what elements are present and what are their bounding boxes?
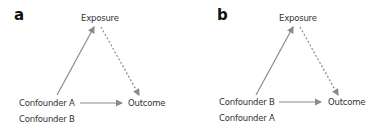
panel-b: b Exposure Outcome Confounder B Confound…: [191, 0, 382, 137]
panel-label: a: [14, 6, 24, 24]
confounder-primary-node: Confounder B: [219, 97, 275, 107]
exposure-node: Exposure: [81, 13, 119, 23]
exposure-node: Exposure: [279, 13, 317, 23]
confounder-primary-node: Confounder A: [19, 98, 75, 108]
confounder-secondary-node: Confounder B: [19, 114, 75, 124]
arrow-confounder-to-exposure: [57, 27, 94, 95]
outcome-node: Outcome: [328, 97, 365, 107]
panel-a: a Exposure Outcome Confounder A Confound…: [0, 0, 191, 137]
outcome-node: Outcome: [128, 98, 165, 108]
arrow-exposure-to-outcome-dashed: [101, 27, 139, 95]
arrow-exposure-to-outcome-dashed: [300, 27, 338, 95]
arrow-confounder-to-exposure: [256, 27, 293, 95]
confounder-secondary-node: Confounder A: [219, 113, 275, 123]
panel-label: b: [217, 6, 228, 24]
